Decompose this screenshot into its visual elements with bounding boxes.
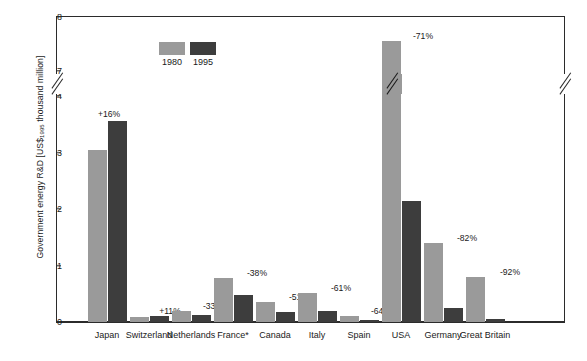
percent-change-label: +16%: [98, 109, 120, 119]
bar-group: [88, 121, 127, 322]
bar-1980: [256, 302, 275, 322]
bar-group: [214, 278, 253, 322]
x-axis-label: Germany: [424, 330, 461, 340]
y-axis-tick-mark: [56, 208, 61, 209]
bar-group: [130, 316, 169, 322]
bar-group: [382, 41, 421, 322]
bar-group: [466, 277, 505, 322]
x-axis-label: Japan: [95, 330, 120, 340]
y-axis-tick-mark: [56, 321, 61, 322]
y-axis-title-subscript: 1995: [39, 124, 45, 138]
bar-1995: [234, 295, 253, 322]
percent-change-label: -92%: [500, 267, 520, 277]
bar-1980: [382, 41, 401, 322]
y-axis-tick-mark: [56, 70, 61, 71]
x-axis-label: Italy: [309, 330, 326, 340]
bar-group: [340, 316, 379, 322]
bar-group: [172, 311, 211, 322]
chart-figure: Government energy R&D [US$1995 thousand …: [0, 0, 587, 361]
percent-change-label: -61%: [331, 283, 351, 293]
y-axis-tick-mark: [56, 265, 61, 266]
bar-1995: [402, 201, 421, 322]
bar-1995: [486, 319, 505, 322]
bar-1980: [424, 243, 443, 322]
bar-1995: [444, 308, 463, 322]
legend-label-1980: 1980: [159, 57, 185, 67]
bar-1980: [466, 277, 485, 322]
bar-1995: [360, 320, 379, 322]
bar-1980: [214, 278, 233, 322]
percent-change-label: -71%: [413, 31, 433, 41]
y-axis-tick-mark: [56, 16, 61, 17]
bar-1980: [172, 311, 191, 322]
x-axis-label: Switzerland: [126, 330, 173, 340]
y-axis-tick-mark: [56, 152, 61, 153]
x-axis-label: Canada: [259, 330, 291, 340]
bar-1995: [276, 312, 295, 322]
legend: 1980 1995: [159, 42, 216, 67]
x-axis-label: Netherlands: [167, 330, 216, 340]
x-axis-label: USA: [392, 330, 411, 340]
bar-group: [298, 293, 337, 322]
bar-group: [256, 302, 295, 322]
bar-1980: [130, 317, 149, 322]
bar-1995: [192, 315, 211, 322]
x-axis-label: Great Britain: [460, 330, 511, 340]
legend-label-1995: 1995: [190, 57, 216, 67]
legend-swatch-1995: [190, 42, 216, 55]
x-axis-label: France*: [217, 330, 249, 340]
bar-1995: [318, 311, 337, 322]
bar-group: [424, 243, 463, 322]
x-axis-label: Spain: [347, 330, 370, 340]
bar-1980: [88, 150, 107, 322]
bar-1980: [298, 293, 317, 322]
bar-1995: [150, 316, 169, 322]
legend-swatch-1980: [159, 42, 185, 55]
percent-change-label: -38%: [247, 268, 267, 278]
percent-change-label: -82%: [457, 233, 477, 243]
bar-1995: [108, 121, 127, 322]
y-axis-tick-mark: [56, 95, 61, 96]
bar-1980: [340, 316, 359, 322]
